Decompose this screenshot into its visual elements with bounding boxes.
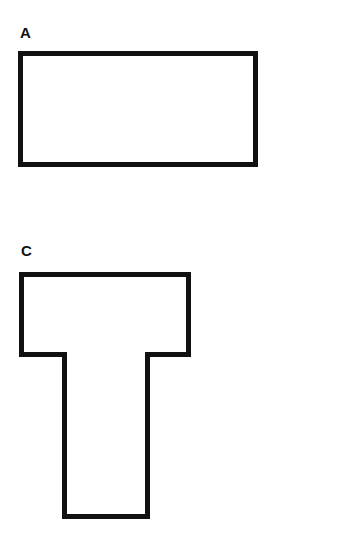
figures-canvas	[0, 0, 344, 539]
figure-a-rectangle	[21, 54, 256, 165]
figure-c-t-shape	[22, 275, 189, 517]
